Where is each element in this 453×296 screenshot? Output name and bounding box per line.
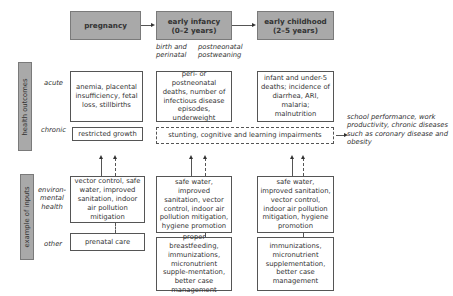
row-label-other: other bbox=[44, 240, 62, 248]
side-health-outcomes: health outcomes bbox=[18, 62, 32, 151]
arrow-line bbox=[232, 25, 253, 26]
env-infancy: safe water, improved sanitation, vector … bbox=[156, 176, 232, 233]
env-pregnancy: vector control, safe water, improved san… bbox=[70, 176, 145, 223]
other-infancy: proper breastfeeding, immunizations, mic… bbox=[156, 237, 232, 291]
acute-pregnancy: anemia, placental insufficiency, fetal l… bbox=[70, 71, 143, 122]
arrow-up-icon bbox=[301, 155, 305, 159]
stage-early-childhood: early childhood (2–5 years) bbox=[257, 11, 334, 40]
other-pregnancy: prenatal care bbox=[70, 233, 145, 251]
acute-infancy: peri- or postneonatal deaths, number of … bbox=[156, 71, 232, 122]
acute-childhood: infant and under-5 deaths; incidence of … bbox=[257, 71, 334, 122]
arrow-up-icon bbox=[203, 155, 207, 159]
stage-pregnancy: pregnancy bbox=[70, 11, 141, 40]
label-birth-perinatal: birth and perinatal bbox=[156, 43, 196, 60]
stage-early-infancy: early infancy (0–2 years) bbox=[156, 11, 232, 40]
row-label-env: environ- mental health bbox=[36, 186, 68, 211]
row-label-chronic: chronic bbox=[41, 126, 66, 134]
arrow-up-icon bbox=[99, 155, 103, 159]
row-label-acute: acute bbox=[44, 79, 63, 87]
chronic-shared: stunting, cognitive and learning impairm… bbox=[156, 127, 334, 144]
arrow-head-icon bbox=[151, 23, 155, 27]
arrow-up-icon bbox=[290, 155, 294, 159]
label-postneonatal: postneonatal postweaning bbox=[198, 43, 242, 60]
env-childhood: safe water, improved sanitation, vector … bbox=[257, 176, 334, 233]
arrow-up-icon bbox=[189, 155, 193, 159]
arrow-head-icon bbox=[252, 23, 256, 27]
chronic-outcome: school performance, work productivity, c… bbox=[347, 113, 453, 147]
arrow-up-icon bbox=[113, 155, 117, 159]
chronic-pregnancy: restricted growth bbox=[72, 127, 143, 141]
other-childhood: immunizations, micronutrient supplementa… bbox=[257, 237, 334, 291]
side-example-inputs: example of inputs bbox=[20, 174, 34, 260]
